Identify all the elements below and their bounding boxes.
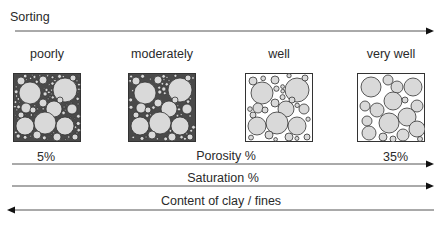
clay-arrow bbox=[7, 207, 434, 214]
saturation-arrow bbox=[12, 183, 434, 190]
arrowhead-left-icon bbox=[7, 207, 15, 214]
arrowhead-right-icon bbox=[426, 161, 434, 168]
arrows-layer bbox=[0, 0, 442, 225]
sorting-arrow bbox=[15, 28, 434, 35]
arrowhead-right-icon bbox=[426, 183, 434, 190]
porosity-arrow bbox=[12, 161, 434, 168]
arrowhead-right-icon bbox=[426, 28, 434, 35]
